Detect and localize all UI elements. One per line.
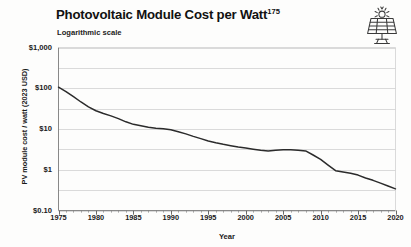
y-tick-label: $100 — [0, 83, 52, 92]
x-tick-label: 1980 — [76, 213, 116, 222]
gridlines — [59, 49, 396, 212]
x-tick-label: 1985 — [113, 213, 153, 222]
y-tick-label: $1 — [0, 165, 52, 174]
data-line-pv-cost — [59, 87, 396, 189]
x-tick-label: 1990 — [151, 213, 191, 222]
chart-figure: Photovoltaic Module Cost per Watt175 Log… — [0, 0, 411, 247]
x-tick-label: 1975 — [39, 213, 79, 222]
y-tick-label: $1,000 — [0, 43, 52, 52]
x-tick-label: 2000 — [226, 213, 266, 222]
y-tick-label: $10 — [0, 124, 52, 133]
x-tick-label: 2005 — [263, 213, 303, 222]
x-tick-label: 1995 — [188, 213, 228, 222]
x-tick-label: 2015 — [338, 213, 378, 222]
plot-frame — [59, 48, 396, 211]
x-tick-label: 2010 — [301, 213, 341, 222]
plot-area — [0, 0, 411, 247]
x-tick-label: 2020 — [376, 213, 411, 222]
